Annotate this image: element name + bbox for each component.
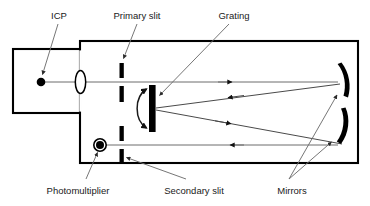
label-icp: ICP bbox=[51, 10, 67, 21]
label-mirrors: Mirrors bbox=[277, 185, 307, 196]
label-secondary-slit: Secondary slit bbox=[164, 185, 224, 196]
label-primary-slit: Primary slit bbox=[114, 10, 161, 21]
lens bbox=[75, 71, 85, 94]
secondary-slit-bar-upper bbox=[120, 126, 124, 141]
label-photomultiplier: Photomultiplier bbox=[47, 185, 110, 196]
spectrometer-diagram: ICP Primary slit Grating Photomultiplier… bbox=[0, 0, 370, 206]
label-grating: Grating bbox=[218, 10, 249, 21]
grating-bar bbox=[149, 85, 156, 132]
primary-slit-bar-upper bbox=[120, 63, 124, 78]
diagram-canvas: ICP Primary slit Grating Photomultiplier… bbox=[0, 0, 370, 206]
primary-slit-bar-lower bbox=[120, 86, 124, 102]
secondary-slit-bar-lower bbox=[120, 149, 124, 163]
icp-source bbox=[37, 78, 46, 87]
photomultiplier-cathode bbox=[96, 141, 104, 149]
photomultiplier bbox=[94, 139, 106, 151]
